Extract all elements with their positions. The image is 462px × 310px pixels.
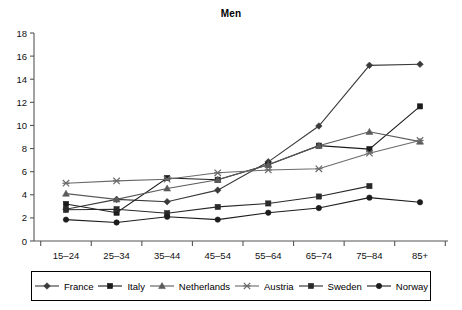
series-netherlands bbox=[63, 128, 424, 202]
marker-diamond bbox=[417, 61, 424, 68]
marker-square bbox=[114, 207, 119, 212]
marker-circle bbox=[266, 210, 271, 215]
legend-item-norway[interactable]: Norway bbox=[366, 280, 428, 292]
y-tick-label: 2 bbox=[22, 212, 27, 223]
legend-item-austria[interactable]: Austria bbox=[234, 280, 294, 292]
marker-diamond bbox=[214, 187, 221, 194]
x-tick-label: 15–24 bbox=[53, 250, 79, 261]
marker-square bbox=[63, 207, 68, 212]
y-tick-label: 16 bbox=[16, 51, 27, 62]
marker-square bbox=[417, 104, 422, 109]
marker-triangle bbox=[366, 128, 373, 134]
x-tick-label: 55–64 bbox=[255, 250, 281, 261]
y-tick-label: 0 bbox=[22, 236, 27, 247]
marker-square bbox=[308, 283, 313, 288]
marker-square bbox=[316, 194, 321, 199]
chart-page: Men 02468101214161815–2425–3435–4445–545… bbox=[0, 0, 462, 310]
marker-square bbox=[266, 201, 271, 206]
y-tick-label: 12 bbox=[16, 97, 27, 108]
y-tick-label: 8 bbox=[22, 143, 27, 154]
marker-circle bbox=[417, 200, 422, 205]
y-tick-label: 18 bbox=[16, 28, 27, 39]
legend-marker-square-icon bbox=[97, 280, 123, 292]
y-tick-label: 14 bbox=[16, 74, 27, 85]
legend-label: Sweden bbox=[327, 281, 362, 292]
marker-circle bbox=[316, 205, 321, 210]
marker-circle bbox=[63, 217, 68, 222]
legend-marker-diamond-icon bbox=[34, 280, 60, 292]
marker-circle bbox=[215, 217, 220, 222]
marker-square bbox=[108, 283, 113, 288]
x-tick-label: 75–84 bbox=[356, 250, 382, 261]
legend-label: Norway bbox=[395, 281, 428, 292]
legend-marker-circle-icon bbox=[366, 280, 392, 292]
legend-marker-square-icon bbox=[298, 280, 324, 292]
x-tick-label: 25–34 bbox=[103, 250, 129, 261]
legend-label: France bbox=[63, 281, 94, 292]
series-line bbox=[66, 132, 420, 200]
legend-item-sweden[interactable]: Sweden bbox=[298, 280, 362, 292]
line-chart-plot: 02468101214161815–2425–3435–4445–5455–64… bbox=[0, 0, 462, 270]
marker-circle bbox=[114, 220, 119, 225]
marker-square bbox=[367, 184, 372, 189]
x-tick-label: 85+ bbox=[412, 250, 429, 261]
legend-label: Italy bbox=[126, 281, 144, 292]
y-tick-label: 10 bbox=[16, 120, 27, 131]
legend-label: Netherlands bbox=[178, 281, 230, 292]
marker-circle bbox=[367, 195, 372, 200]
marker-diamond bbox=[44, 283, 51, 290]
legend-marker-x-dash-icon bbox=[234, 280, 260, 292]
marker-circle bbox=[164, 214, 169, 219]
series-austria bbox=[62, 137, 423, 186]
marker-triangle bbox=[63, 190, 70, 196]
marker-diamond bbox=[164, 198, 171, 205]
marker-circle bbox=[376, 283, 381, 288]
series-france bbox=[63, 61, 424, 213]
marker-square bbox=[63, 201, 68, 206]
legend-marker-triangle-icon bbox=[149, 280, 175, 292]
chart-legend: FranceItalyNetherlandsAustriaSwedenNorwa… bbox=[31, 271, 431, 301]
y-tick-label: 6 bbox=[22, 166, 27, 177]
legend-item-france[interactable]: France bbox=[34, 280, 94, 292]
y-tick-label: 4 bbox=[22, 189, 27, 200]
x-tick-label: 35–44 bbox=[154, 250, 180, 261]
marker-square bbox=[215, 204, 220, 209]
x-tick-label: 65–74 bbox=[306, 250, 332, 261]
legend-item-italy[interactable]: Italy bbox=[97, 280, 144, 292]
x-tick-label: 45–54 bbox=[205, 250, 231, 261]
legend-label: Austria bbox=[263, 281, 294, 292]
legend-item-netherlands[interactable]: Netherlands bbox=[149, 280, 230, 292]
